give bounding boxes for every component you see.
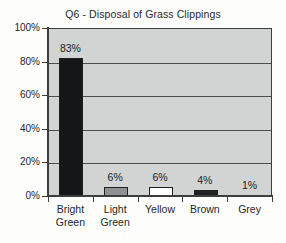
x-axis-tick xyxy=(182,196,183,202)
category-label-line: Green xyxy=(85,216,145,229)
chart-title: Q6 - Disposal of Grass Clippings xyxy=(0,8,286,20)
x-axis-tick xyxy=(138,196,139,202)
y-axis-tick-label: 20% xyxy=(0,156,40,167)
bar-value-label: 1% xyxy=(220,179,280,191)
y-axis-tick xyxy=(42,162,48,163)
y-axis-tick-label: 40% xyxy=(0,123,40,134)
x-axis-tick xyxy=(48,196,49,202)
y-axis-tick-label: 0% xyxy=(0,190,40,201)
y-axis-tick xyxy=(42,129,48,130)
y-axis-tick xyxy=(42,95,48,96)
x-axis-line xyxy=(47,195,273,197)
x-axis-tick xyxy=(227,196,228,202)
y-axis-tick xyxy=(42,62,48,63)
bar xyxy=(59,58,83,197)
y-axis-tick-label: 100% xyxy=(0,22,40,33)
x-axis-tick xyxy=(93,196,94,202)
x-axis-category-label: Grey xyxy=(220,203,280,216)
category-label-line: Grey xyxy=(220,203,280,216)
bar-value-label: 83% xyxy=(40,42,100,54)
y-axis-tick-label: 80% xyxy=(0,56,40,67)
x-axis-tick xyxy=(272,196,273,202)
chart-screenshot: Q6 - Disposal of Grass Clippings 100%80%… xyxy=(0,0,286,243)
y-axis-tick xyxy=(42,28,48,29)
y-axis-tick-label: 60% xyxy=(0,89,40,100)
